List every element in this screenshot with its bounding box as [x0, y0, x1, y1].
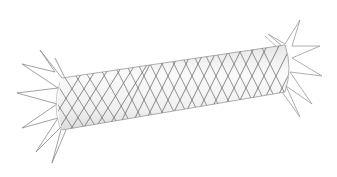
stent-photo — [0, 0, 337, 177]
stent-tube — [30, 40, 318, 140]
stent-illustration — [0, 0, 337, 177]
